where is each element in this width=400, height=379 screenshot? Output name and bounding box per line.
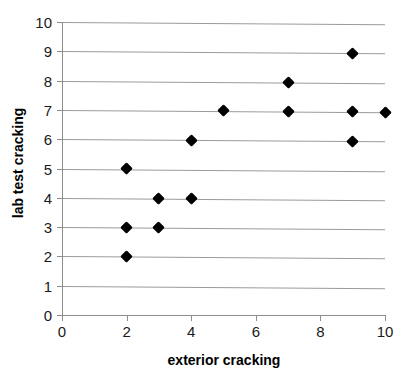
x-tick-label: 2 [112, 324, 142, 339]
y-tick-label: 6 [26, 132, 52, 147]
y-tick-mark [57, 81, 63, 82]
y-tick-label: 7 [26, 103, 52, 118]
x-axis-line [62, 315, 386, 316]
y-tick-label: 9 [26, 44, 52, 59]
plot-area [62, 22, 385, 315]
x-tick-label: 6 [241, 324, 271, 339]
y-tick-label: 0 [26, 308, 52, 323]
gridline [62, 256, 385, 259]
x-tick-label: 0 [47, 324, 77, 339]
y-tick-label: 4 [26, 191, 52, 206]
y-tick-mark [57, 22, 63, 23]
y-tick-mark [57, 110, 63, 111]
gridline [62, 139, 385, 142]
y-axis-tick-labels: 012345678910 [22, 0, 52, 379]
gridline [62, 169, 385, 172]
gridline [62, 227, 385, 230]
x-tick-mark [320, 315, 321, 321]
x-tick-mark [62, 315, 63, 321]
y-tick-mark [57, 139, 63, 140]
y-tick-label: 8 [26, 74, 52, 89]
x-tick-mark [191, 315, 192, 321]
x-axis-title: exterior cracking [62, 352, 386, 368]
x-tick-mark [127, 315, 128, 321]
gridline [62, 81, 385, 84]
y-tick-mark [57, 51, 63, 52]
gridline [62, 22, 385, 25]
y-tick-mark [57, 169, 63, 170]
x-tick-label: 8 [305, 324, 335, 339]
gridline [62, 198, 385, 201]
y-tick-mark [57, 198, 63, 199]
y-tick-mark [57, 286, 63, 287]
y-tick-mark [57, 256, 63, 257]
x-tick-mark [256, 315, 257, 321]
gridline [62, 286, 385, 289]
y-axis-title: lab test cracking [10, 83, 26, 243]
x-tick-label: 10 [370, 324, 400, 339]
x-tick-label: 4 [176, 324, 206, 339]
y-tick-label: 2 [26, 249, 52, 264]
scatter-chart: 012345678910 0246810 exterior cracking l… [0, 0, 400, 379]
y-tick-label: 1 [26, 279, 52, 294]
y-tick-label: 3 [26, 220, 52, 235]
y-tick-mark [57, 227, 63, 228]
y-tick-label: 10 [26, 15, 52, 30]
gridline [62, 51, 385, 54]
x-tick-mark [385, 315, 386, 321]
y-tick-label: 5 [26, 162, 52, 177]
